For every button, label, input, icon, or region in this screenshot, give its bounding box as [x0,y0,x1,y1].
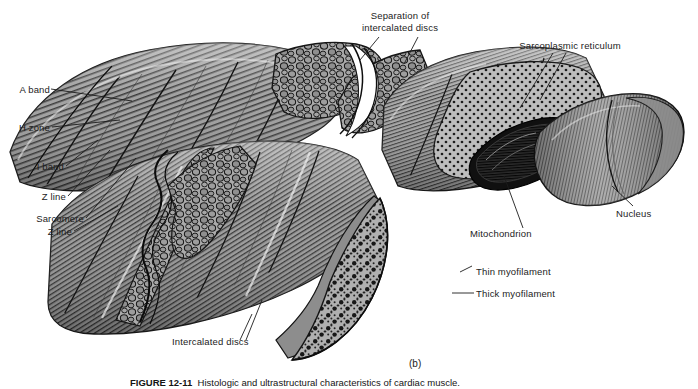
label-intercalated-discs: Intercalated discs [172,336,249,347]
label-sarcoplasmic-reticulum: Sarcoplasmic reticulum [500,40,640,51]
label-separation-line1: Separation of [360,10,440,21]
label-thin-myofilament: Thin myofilament [476,266,551,277]
caption-number: FIGURE 12-11 [130,377,192,388]
label-thick-myofilament: Thick myofilament [476,288,555,299]
label-a-band: A band [2,84,50,95]
figure-caption: FIGURE 12-11 Histologic and ultrastructu… [0,377,698,389]
figure-panel-b: A band H zone I band Z line Sarcomere Z … [0,0,698,389]
label-i-band: I band [12,161,64,172]
cardiac-muscle-illustration [0,0,698,389]
label-mitochondrion: Mitochondrion [470,228,532,239]
caption-text: Histologic and ultrastructural character… [198,377,460,388]
label-z-line-lower: Z line [20,226,72,237]
panel-label-b: (b) [409,358,421,369]
label-nucleus: Nucleus [616,208,651,219]
label-z-line-upper: Z line [14,191,66,202]
label-separation-line2: intercalated discs [348,22,452,33]
label-h-zone: H zone [2,122,50,133]
label-sarcomere: Sarcomere [6,213,84,224]
